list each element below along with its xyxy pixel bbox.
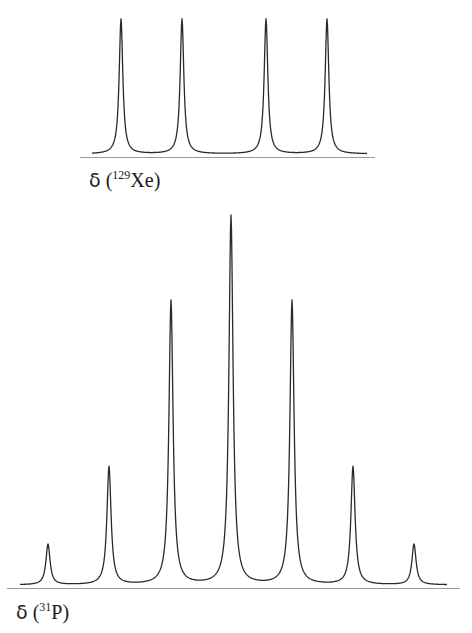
- p31-axis-label: δ (31P): [16, 600, 69, 624]
- xe129-spectrum: [80, 19, 375, 158]
- delta-symbol: δ: [16, 601, 28, 623]
- p31-trace: [20, 215, 447, 585]
- nucleus: P: [51, 601, 62, 623]
- xe129-axis-label: δ (129Xe): [89, 168, 160, 192]
- isotope-mass: 31: [39, 600, 51, 614]
- isotope-mass: 129: [112, 168, 130, 182]
- delta-symbol: δ: [89, 169, 101, 191]
- xe129-trace: [92, 19, 367, 154]
- nmr-spectra-plot: [0, 0, 472, 633]
- nucleus: Xe: [130, 169, 153, 191]
- p31-spectrum: [7, 215, 460, 589]
